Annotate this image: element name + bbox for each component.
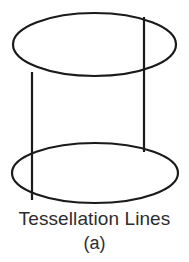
bottom-ellipse — [12, 143, 178, 203]
figure-caption: Tessellation Lines — [0, 208, 189, 230]
caption-block: Tessellation Lines (a) — [0, 208, 189, 254]
figure-sublabel: (a) — [0, 233, 189, 254]
figure-container: Tessellation Lines (a) — [0, 0, 189, 262]
cylinder-diagram — [0, 0, 189, 212]
top-ellipse — [13, 13, 176, 76]
